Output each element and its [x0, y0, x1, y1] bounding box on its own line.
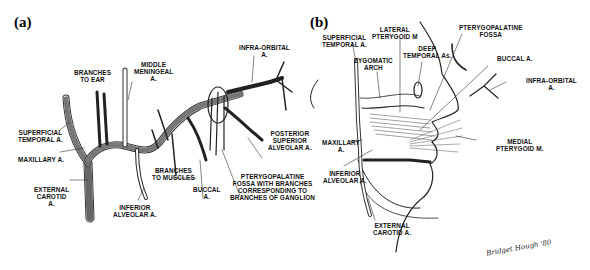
label-infra-orbital-a: INFRA-ORBITAL A.: [526, 77, 577, 91]
label-middle-meningeal-a: MIDDLE MENINGEAL A.: [134, 61, 173, 82]
label-superficial-temporal-a: SUPERFICIAL TEMPORAL A.: [322, 34, 367, 48]
panel-b-face-anatomy-illustration: (b): [300, 0, 590, 270]
label-maxillary-a: MAXILLARY A.: [18, 156, 64, 163]
label-maxillary-a: MAXILLARY A.: [322, 139, 360, 153]
label-superficial-temporal-a: SUPERFICIAL TEMPORAL A.: [18, 129, 63, 143]
label-branches-to-ear: BRANCHES TO EAR: [74, 69, 111, 83]
label-branches-to-muscles: BRANCHES TO MUSCLES: [152, 167, 195, 181]
label-buccal-a: BUCCAL A.: [193, 186, 221, 200]
label-medial-pterygoid-m: MEDIAL PTERYGOID M.: [496, 138, 543, 152]
label-lateral-pterygoid-m: LATERAL PTERYGOID M: [372, 26, 418, 40]
label-inferior-alveolar-a: INFERIOR ALVEOLAR A.: [323, 170, 367, 184]
label-pterygopalatine-fossa: PTERYGOPALATINE FOSSA: [459, 24, 523, 38]
label-buccal-a: BUCCAL A.: [497, 55, 533, 62]
label-zygomatic-arch: ZYGOMATIC ARCH: [354, 57, 393, 71]
label-infra-orbital-a: INFRA-ORBITAL A.: [239, 44, 290, 58]
panel-a-maxillary-artery-schematic: (a): [0, 0, 300, 270]
label-inferior-alveolar-a: INFERIOR ALVEOLAR A.: [113, 204, 157, 218]
label-deep-temporal-as: DEEP TEMPORAL As.: [403, 45, 451, 59]
label-external-carotid-a: EXTERNAL CAROTID A.: [373, 222, 411, 236]
label-external-carotid-a: EXTERNAL CAROTID A.: [34, 186, 69, 207]
